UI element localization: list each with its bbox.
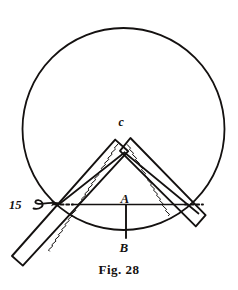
- square-right-arm-body: [120, 138, 206, 226]
- square-left-arm: [12, 140, 128, 266]
- square-left-arm-graduations: [48, 144, 118, 251]
- label-apex-c: c: [119, 115, 125, 129]
- label-chord-midpoint-a: A: [120, 191, 130, 206]
- figure-page: c A B 15 Fig. 28: [0, 0, 238, 290]
- inscribed-chord-left: [58, 153, 125, 206]
- label-arc-point-b: B: [119, 240, 129, 255]
- square-right-arm: [120, 138, 206, 226]
- figure-caption: Fig. 28: [0, 262, 238, 278]
- square-left-arm-body: [12, 140, 128, 266]
- figure-drawing: c A B 15: [0, 0, 238, 290]
- label-callout-15: 15: [9, 198, 22, 212]
